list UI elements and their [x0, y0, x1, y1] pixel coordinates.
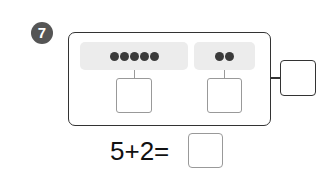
dot-group-two: [194, 42, 255, 70]
equation-answer-box[interactable]: [188, 133, 223, 168]
group-one-count-box[interactable]: [116, 78, 152, 113]
group-two-count-box[interactable]: [207, 78, 242, 113]
equation-text: 5+2=: [110, 136, 169, 166]
dot-icon: [225, 52, 234, 61]
dot-icon: [130, 52, 139, 61]
dot-icon: [150, 52, 159, 61]
dot-icon: [140, 52, 149, 61]
dot-icon: [215, 52, 224, 61]
connector-line: [224, 70, 225, 78]
total-count-box[interactable]: [280, 60, 316, 96]
dot-icon: [120, 52, 129, 61]
problem-number-badge: 7: [31, 22, 53, 44]
dot-icon: [110, 52, 119, 61]
dot-group-five: [80, 42, 188, 70]
connector-line: [134, 70, 135, 78]
